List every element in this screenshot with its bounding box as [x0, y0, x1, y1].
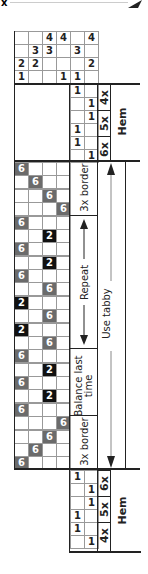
tieup-cell: [56, 44, 71, 58]
border-bottom-label: 3x border: [79, 402, 90, 482]
threading-right-border: [69, 84, 70, 552]
threading-cell: [42, 349, 57, 363]
threading-cell: [28, 349, 43, 363]
threading-cell: [28, 389, 43, 403]
threading-cell: [14, 175, 29, 189]
threading-cell: [28, 216, 43, 230]
threading-cell: [42, 323, 57, 337]
threading-cell: 2: [14, 296, 29, 310]
threading-cell: [42, 242, 57, 256]
tieup-cell: 1: [14, 70, 29, 84]
hem-label-border-bottom: [110, 470, 111, 552]
threading-cell: 2: [42, 256, 57, 270]
tieup-cell: 2: [14, 57, 29, 71]
tieup-cell: [84, 44, 99, 58]
hem-cell: 1: [70, 509, 85, 523]
threading-cell: [14, 336, 29, 350]
threading-cell: [14, 256, 29, 270]
threading-cell: 6: [14, 269, 29, 283]
annotation-border: [97, 84, 98, 552]
tieup-cell: 1: [70, 70, 85, 84]
divider-hem-bottom: [14, 468, 140, 470]
border-top-label: 3x border: [79, 148, 90, 228]
threading-cell: [14, 282, 29, 296]
threading-cell: 6: [14, 242, 29, 256]
threading-cell: [28, 323, 43, 337]
hem-separator: [98, 470, 110, 471]
tieup-cell: [70, 31, 85, 45]
threading-cell: [42, 296, 57, 310]
tieup-cell: 3: [70, 44, 85, 58]
threading-cell: [28, 403, 43, 417]
threading-cell: [42, 443, 57, 457]
left-border: [14, 31, 15, 469]
tieup-cell: 4: [56, 31, 71, 45]
bottom-rule: [69, 551, 141, 553]
repeat-label: Repeat: [79, 253, 90, 313]
tieup-cell: 1: [56, 70, 71, 84]
hem-bottom-label: Hem: [117, 491, 128, 531]
threading-cell: 6: [14, 403, 29, 417]
threading-cell: 6: [42, 430, 57, 444]
threading-cell: 6: [14, 349, 29, 363]
tieup-cell: 2: [28, 57, 43, 71]
hem-cell: 1: [70, 123, 85, 137]
arrow-icon: [128, 0, 142, 8]
threading-cell: [42, 416, 57, 430]
hem-cell: [70, 535, 85, 549]
threading-cell: [28, 162, 43, 176]
tieup-cell: [84, 70, 99, 84]
divider-tieup: [14, 83, 140, 85]
threading-cell: [14, 202, 29, 216]
threading-cell: 6: [14, 376, 29, 390]
tieup-cell: [42, 70, 57, 84]
hem-separator: [98, 522, 110, 523]
threading-cell: [28, 416, 43, 430]
tabby-border: [125, 161, 126, 469]
threading-cell: 2: [42, 363, 57, 377]
threading-cell: 2: [42, 229, 57, 243]
hem-separator: [98, 136, 110, 137]
sep-repeat-balance: [70, 348, 98, 349]
hem-cell: [70, 496, 85, 510]
threading-cell: [42, 269, 57, 283]
threading-cell: 2: [14, 323, 29, 337]
threading-cell: [28, 363, 43, 377]
threading-cell: 6: [42, 309, 57, 323]
tieup-cell: [14, 44, 29, 58]
threading-cell: [28, 282, 43, 296]
threading-cell: [28, 242, 43, 256]
tieup-cell: [42, 57, 57, 71]
hem-repeat-label: 5x: [99, 112, 110, 136]
threading-cell: [42, 216, 57, 230]
threading-cell: [14, 189, 29, 203]
threading-cell: [14, 309, 29, 323]
x-mark: x: [1, 0, 7, 8]
threading-cell: [28, 309, 43, 323]
threading-cell: [14, 229, 29, 243]
tabby-label: Use tabby: [101, 284, 112, 344]
hem-repeat-label: 5x: [99, 498, 110, 522]
threading-cell: [14, 389, 29, 403]
threading-cell: [14, 430, 29, 444]
hem-label-border-top: [110, 84, 111, 160]
threading-cell: 6: [42, 282, 57, 296]
threading-cell: [14, 416, 29, 430]
tieup-cell: 3: [28, 44, 43, 58]
threading-cell: [28, 430, 43, 444]
tieup-cell: [28, 70, 43, 84]
hem-cell: [70, 110, 85, 124]
top-rule: [10, 2, 128, 3]
threading-cell: [28, 256, 43, 270]
hem-cell: [70, 97, 85, 111]
threading-cell: 6: [28, 443, 43, 457]
threading-cell: 6: [42, 336, 57, 350]
tieup-cell: 4: [84, 31, 99, 45]
threading-cell: [42, 403, 57, 417]
hem-repeat-label: 6x: [99, 138, 110, 162]
tieup-cell: [56, 57, 71, 71]
threading-cell: [42, 162, 57, 176]
hem-repeat-label: 4x: [99, 524, 110, 548]
threading-cell: [28, 202, 43, 216]
hem-top-label: Hem: [117, 102, 128, 142]
